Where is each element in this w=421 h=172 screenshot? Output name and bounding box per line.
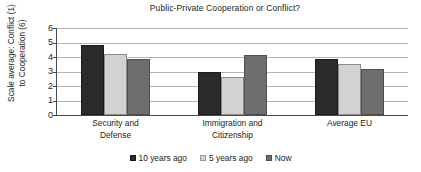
y-axis-tick-label: 2 (37, 82, 53, 91)
y-axis-tick-label: 6 (37, 24, 53, 33)
x-axis-category-label-line: Immigration and (173, 118, 293, 130)
bar (244, 55, 267, 115)
x-axis-category-label-line: Security and (56, 118, 176, 130)
y-axis-tick-mark (53, 101, 57, 102)
legend-swatch-icon (130, 155, 136, 161)
y-axis-title: Scale average: Conflict (1) to Cooperati… (6, 0, 32, 106)
chart-title: Public-Private Cooperation or Conflict? (60, 3, 390, 14)
y-axis-tick-mark (53, 115, 57, 116)
bar (221, 77, 244, 115)
legend-label: 10 years ago (139, 154, 187, 163)
bar-chart: Public-Private Cooperation or Conflict? … (0, 0, 421, 172)
x-axis-category-label: Average EU (290, 118, 410, 130)
chart-legend: 10 years ago5 years agoNow (0, 151, 421, 165)
legend-item[interactable]: Now (266, 154, 292, 163)
legend-swatch-icon (200, 155, 206, 161)
y-axis-tick-labels: 6543210 (36, 28, 53, 116)
bar (338, 64, 361, 115)
y-axis-tick-mark (53, 57, 57, 58)
y-axis-tick-label: 5 (37, 38, 53, 47)
bar (127, 59, 150, 115)
y-axis-tick-label: 3 (37, 67, 53, 76)
bar (104, 54, 127, 115)
plot-area (57, 28, 408, 115)
x-axis-category-label-line: Average EU (290, 118, 410, 130)
y-axis-tick-label: 1 (37, 96, 53, 105)
x-axis-category-label-line: Defense (56, 130, 176, 142)
legend-label: 5 years ago (209, 154, 253, 163)
x-axis-line (56, 115, 408, 116)
y-axis-tick-mark (53, 43, 57, 44)
y-axis-tick-label: 4 (37, 53, 53, 62)
legend-swatch-icon (266, 155, 272, 161)
gridline (57, 43, 408, 44)
bar (315, 59, 338, 115)
x-axis-category-label: Security andDefense (56, 118, 176, 141)
y-axis-tick-label: 0 (37, 111, 53, 120)
y-axis-tick-mark (53, 28, 57, 29)
bar (198, 72, 221, 116)
legend-item[interactable]: 10 years ago (130, 154, 187, 163)
bar (361, 69, 384, 115)
x-axis-category-labels: Security andDefenseImmigration andCitize… (57, 118, 408, 146)
x-axis-category-label: Immigration andCitizenship (173, 118, 293, 141)
x-axis-category-label-line: Citizenship (173, 130, 293, 142)
gridline (57, 28, 408, 29)
y-axis-tick-mark (53, 72, 57, 73)
legend-item[interactable]: 5 years ago (200, 154, 253, 163)
y-axis-tick-mark (53, 86, 57, 87)
legend-label: Now (275, 154, 292, 163)
bar (81, 45, 104, 115)
